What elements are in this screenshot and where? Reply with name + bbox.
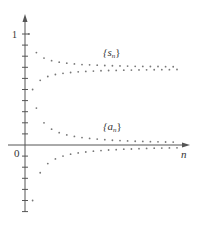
- data-point: [62, 72, 64, 74]
- series-s-n-points: [28, 33, 178, 90]
- data-point: [157, 66, 159, 68]
- a-n-annotation-main: {a: [103, 120, 113, 132]
- data-point: [157, 141, 159, 143]
- data-point: [32, 89, 34, 91]
- data-point: [89, 64, 91, 66]
- data-point: [43, 122, 45, 124]
- series-a-n-points: [28, 33, 178, 201]
- data-point: [62, 155, 64, 157]
- data-point: [104, 139, 106, 141]
- data-point: [127, 65, 129, 67]
- data-point: [100, 70, 102, 72]
- data-point: [134, 65, 136, 67]
- data-point: [108, 149, 110, 151]
- data-point: [93, 70, 95, 72]
- origin-label: 0: [14, 147, 20, 159]
- data-point: [70, 72, 72, 74]
- data-point: [115, 70, 117, 72]
- data-point: [146, 69, 148, 71]
- data-point: [172, 66, 174, 68]
- data-point: [51, 60, 53, 62]
- data-point: [81, 64, 83, 66]
- data-point: [138, 148, 140, 150]
- data-point: [81, 137, 83, 139]
- data-point: [36, 107, 38, 109]
- data-point: [43, 57, 45, 59]
- data-point: [89, 138, 91, 140]
- data-point: [146, 148, 148, 150]
- data-point: [176, 69, 178, 71]
- data-point: [123, 148, 125, 150]
- s-n-annotation-main: {s: [103, 46, 112, 58]
- data-point: [161, 147, 163, 149]
- data-point: [96, 138, 98, 140]
- y-tick-label-one: 1: [12, 29, 17, 40]
- data-point: [172, 141, 174, 143]
- data-point: [36, 52, 38, 54]
- x-axis-arrow-icon: [182, 143, 190, 148]
- data-point: [100, 150, 102, 152]
- data-point: [66, 134, 68, 136]
- s-n-annotation: {sn}: [103, 46, 120, 60]
- data-point: [93, 150, 95, 152]
- data-point: [169, 147, 171, 149]
- data-point: [104, 65, 106, 67]
- data-point: [55, 158, 57, 160]
- data-point: [150, 141, 152, 143]
- y-axis-arrow-icon: [23, 14, 28, 22]
- data-point: [55, 74, 57, 76]
- data-point: [85, 151, 87, 153]
- x-axis-label: n: [181, 148, 187, 160]
- data-point: [134, 140, 136, 142]
- data-point: [58, 61, 60, 63]
- data-point: [142, 66, 144, 68]
- data-point: [138, 69, 140, 71]
- data-point: [39, 172, 41, 174]
- data-point: [150, 66, 152, 68]
- a-n-annotation: {an}: [103, 120, 122, 134]
- data-point: [85, 71, 87, 73]
- data-point: [96, 64, 98, 66]
- data-point: [119, 65, 121, 67]
- data-point: [131, 69, 133, 71]
- data-point: [142, 141, 144, 143]
- data-point: [165, 141, 167, 143]
- data-point: [153, 69, 155, 71]
- data-point: [77, 152, 79, 154]
- data-point: [115, 149, 117, 151]
- data-point: [169, 69, 171, 71]
- data-point: [153, 147, 155, 149]
- data-point: [131, 148, 133, 150]
- data-point: [112, 65, 114, 67]
- data-point: [123, 69, 125, 71]
- data-point: [176, 147, 178, 149]
- data-point: [32, 200, 34, 202]
- data-point: [51, 128, 53, 130]
- data-point: [58, 132, 60, 134]
- data-point: [28, 33, 30, 35]
- data-point: [77, 71, 79, 73]
- sequence-plot: 1 0 n {sn} {an}: [0, 0, 197, 230]
- data-point: [127, 140, 129, 142]
- data-point: [70, 153, 72, 155]
- data-point: [66, 62, 68, 64]
- data-point: [47, 76, 49, 78]
- data-point: [165, 66, 167, 68]
- axes: [8, 14, 190, 212]
- data-point: [108, 70, 110, 72]
- a-n-annotation-close: }: [116, 120, 121, 132]
- data-point: [39, 79, 41, 81]
- data-point: [74, 63, 76, 65]
- s-n-annotation-close: }: [115, 46, 120, 58]
- data-point: [112, 139, 114, 141]
- data-point: [47, 163, 49, 165]
- data-point: [74, 136, 76, 138]
- data-point: [119, 140, 121, 142]
- data-point: [161, 69, 163, 71]
